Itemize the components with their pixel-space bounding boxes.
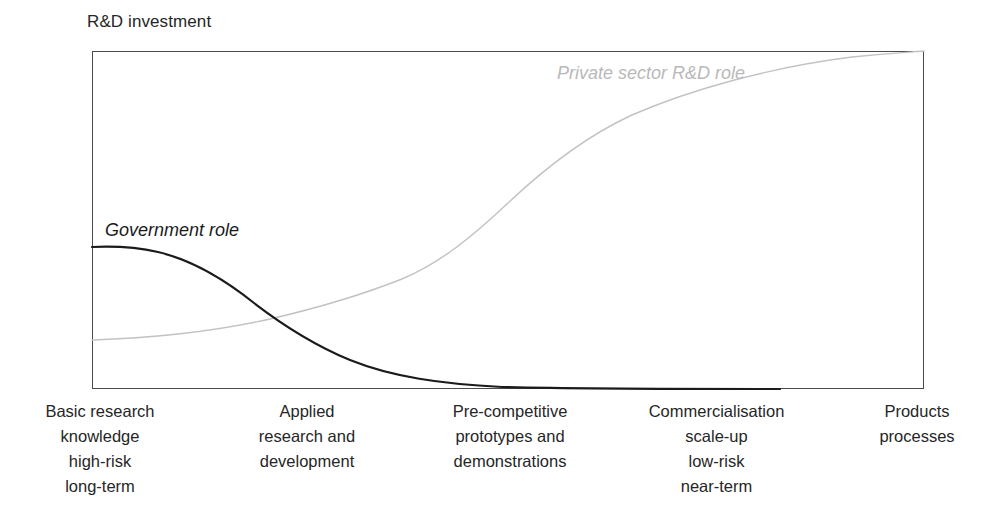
x-category-line: prototypes and (410, 424, 610, 449)
series-label-government: Government role (105, 220, 239, 241)
x-category-line: long-term (0, 474, 200, 499)
x-category-products: Productsprocesses (838, 399, 996, 449)
x-category-line: scale-up (614, 424, 819, 449)
x-category-line: Pre-competitive (410, 399, 610, 424)
rd-investment-chart: R&D investment Government role Private s… (0, 0, 996, 527)
x-category-line: demonstrations (410, 449, 610, 474)
x-axis-labels: Basic researchknowledgehigh-risklong-ter… (0, 399, 996, 519)
x-category-line: near-term (614, 474, 819, 499)
x-category-line: Commercialisation (614, 399, 819, 424)
y-axis-title: R&D investment (87, 12, 211, 32)
series-label-private: Private sector R&D role (557, 63, 745, 84)
government-curve (92, 247, 780, 389)
x-category-pre-competitive: Pre-competitiveprototypes anddemonstrati… (410, 399, 610, 474)
x-category-line: knowledge (0, 424, 200, 449)
x-category-line: research and (212, 424, 402, 449)
x-category-line: Products (838, 399, 996, 424)
x-category-line: development (212, 449, 402, 474)
x-category-line: Applied (212, 399, 402, 424)
x-category-line: high-risk (0, 449, 200, 474)
x-category-applied-research: Appliedresearch anddevelopment (212, 399, 402, 474)
x-category-commercialisation: Commercialisationscale-uplow-risknear-te… (614, 399, 819, 499)
x-category-line: low-risk (614, 449, 819, 474)
x-category-basic-research: Basic researchknowledgehigh-risklong-ter… (0, 399, 200, 499)
x-category-line: processes (838, 424, 996, 449)
x-category-line: Basic research (0, 399, 200, 424)
private-sector-curve (92, 51, 924, 340)
